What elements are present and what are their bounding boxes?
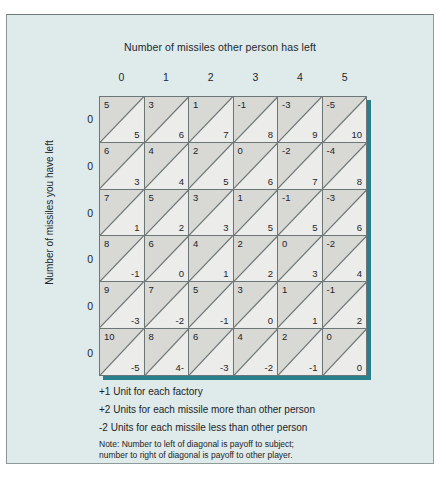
- payoff-other: 7: [223, 129, 228, 140]
- matrix-cell: 17: [189, 97, 234, 143]
- note-block: Note: Number to left of diagonal is payo…: [99, 439, 399, 461]
- matrix-cell: -12: [323, 282, 367, 328]
- column-header: 3: [233, 71, 278, 83]
- legend-block: +1 Unit for each factory +2 Units for ea…: [99, 386, 399, 440]
- legend-line: -2 Units for each missile less than othe…: [99, 422, 399, 433]
- payoff-other: -1: [309, 362, 317, 373]
- payoff-other: 3: [134, 176, 139, 187]
- payoff-self: 1: [193, 99, 198, 110]
- payoff-self: 3: [193, 192, 198, 203]
- matrix-cell: 30: [234, 282, 279, 328]
- payoff-other: -1: [220, 315, 228, 326]
- payoff-self: 0: [327, 331, 332, 342]
- matrix-cell: 00: [323, 329, 367, 375]
- payoff-other: 8: [357, 176, 362, 187]
- payoff-other: 10: [351, 129, 362, 140]
- payoff-other: 1: [223, 268, 228, 279]
- matrix-cell: 15: [234, 190, 279, 236]
- payoff-other: 4-: [176, 362, 184, 373]
- payoff-self: -2: [327, 238, 335, 249]
- payoff-self: -3: [327, 192, 335, 203]
- payoff-other: 1: [134, 222, 139, 233]
- payoff-other: 8: [268, 129, 273, 140]
- payoff-other: 4: [179, 176, 184, 187]
- column-header: 0: [99, 71, 144, 83]
- matrix-row: 9-37-25-13011-12: [100, 282, 366, 328]
- payoff-other: 0: [357, 362, 362, 373]
- payoff-self: -4: [327, 145, 335, 156]
- matrix-row: 10-584-6-34-22-100: [100, 329, 366, 375]
- payoff-self: -3: [282, 99, 290, 110]
- payoff-self: 4: [238, 331, 243, 342]
- matrix-cell: 63: [100, 143, 145, 189]
- matrix-cell: 52: [145, 190, 190, 236]
- matrix-cell: -39: [278, 97, 323, 143]
- matrix-cell: -36: [323, 190, 367, 236]
- payoff-other: 5: [223, 176, 228, 187]
- payoff-other: 4: [357, 268, 362, 279]
- payoff-other: 0: [268, 315, 273, 326]
- matrix-cell: -510: [323, 97, 367, 143]
- matrix-row: 63442506-27-48: [100, 143, 366, 189]
- matrix-cell: 2-1: [278, 329, 323, 375]
- matrix-cell: -27: [278, 143, 323, 189]
- payoff-self: 0: [238, 145, 243, 156]
- payoff-self: -1: [238, 99, 246, 110]
- row-header: 0: [67, 283, 93, 330]
- matrix-cell: 33: [189, 190, 234, 236]
- matrix-cell: 4-2: [234, 329, 279, 375]
- matrix-cell: -15: [278, 190, 323, 236]
- payoff-self: 4: [149, 145, 154, 156]
- payoff-self: 4: [193, 238, 198, 249]
- matrix-cell: 06: [234, 143, 279, 189]
- payoff-self: 0: [282, 238, 287, 249]
- matrix-row: 71523315-15-36: [100, 190, 366, 236]
- row-header: 0: [67, 96, 93, 143]
- row-header: 0: [67, 143, 93, 190]
- payoff-self: -1: [327, 284, 335, 295]
- matrix-cell: 55: [100, 97, 145, 143]
- payoff-self: 7: [149, 284, 154, 295]
- matrix-cell: 10-5: [100, 329, 145, 375]
- payoff-self: 7: [104, 192, 109, 203]
- row-header: 0: [67, 329, 93, 376]
- payoff-other: 9: [312, 129, 317, 140]
- payoff-other: -3: [131, 315, 139, 326]
- payoff-self: 5: [104, 99, 109, 110]
- matrix-cell: 44: [145, 143, 190, 189]
- matrix-cell: -24: [323, 236, 367, 282]
- payoff-self: 3: [238, 284, 243, 295]
- payoff-other: 6: [268, 176, 273, 187]
- payoff-other: -2: [265, 362, 273, 373]
- matrix-cell: 8-1: [100, 236, 145, 282]
- payoff-other: 5: [268, 222, 273, 233]
- matrix-row: 553617-18-39-510: [100, 97, 366, 143]
- payoff-other: 2: [357, 315, 362, 326]
- payoff-self: 6: [104, 145, 109, 156]
- payoff-other: -2: [176, 315, 184, 326]
- column-header: 4: [278, 71, 323, 83]
- payoff-other: 5: [134, 129, 139, 140]
- matrix-cell: 60: [145, 236, 190, 282]
- row-header: 0: [67, 236, 93, 283]
- note-line: Note: Number to left of diagonal is payo…: [99, 439, 399, 450]
- payoff-other: 5: [312, 222, 317, 233]
- column-header: 5: [322, 71, 367, 83]
- payoff-self: 2: [238, 238, 243, 249]
- payoff-self: 3: [149, 99, 154, 110]
- matrix-cell: 03: [278, 236, 323, 282]
- payoff-self: 1: [282, 284, 287, 295]
- payoff-self: 5: [193, 284, 198, 295]
- payoff-other: 7: [312, 176, 317, 187]
- legend-line: +1 Unit for each factory: [99, 386, 399, 397]
- payoff-self: 9: [104, 284, 109, 295]
- payoff-other: 1: [312, 315, 317, 326]
- figure-panel: Number of missiles other person has left…: [6, 14, 434, 464]
- payoff-self: 6: [149, 238, 154, 249]
- column-header-row: 0 1 2 3 4 5: [99, 71, 367, 83]
- legend-line: +2 Units for each missile more than othe…: [99, 404, 399, 415]
- payoff-self: 1: [238, 192, 243, 203]
- payoff-self: 6: [193, 331, 198, 342]
- matrix-cell: 84-: [145, 329, 190, 375]
- matrix-cell: -48: [323, 143, 367, 189]
